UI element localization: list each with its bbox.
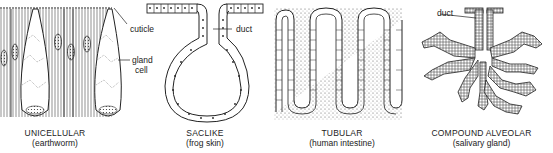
caption-title: SACLIKE	[165, 128, 245, 138]
caption-title: UNICELLULAR	[0, 128, 110, 138]
panel-saclike: duct SACLIKE (frog skin)	[145, 0, 265, 153]
caption-tubular: TUBULAR (human intestine)	[282, 128, 402, 148]
label-duct: duct	[236, 24, 252, 34]
tubular-gland-illustration	[272, 0, 412, 125]
caption-title: TUBULAR	[282, 128, 402, 138]
caption-subtitle: (earthworm)	[0, 138, 110, 148]
caption-compound-alveolar: COMPOUND ALVEOLAR (salivary gland)	[410, 128, 553, 148]
caption-subtitle: (human intestine)	[282, 138, 402, 148]
caption-title: COMPOUND ALVEOLAR	[410, 128, 553, 138]
panel-compound-alveolar: duct COMPOUND ALVEOLAR (salivary gland)	[410, 0, 553, 153]
unicellular-gland-illustration	[0, 0, 140, 125]
saclike-gland-illustration	[145, 0, 265, 125]
caption-unicellular: UNICELLULAR (earthworm)	[0, 128, 110, 148]
caption-saclike: SACLIKE (frog skin)	[165, 128, 245, 148]
panel-unicellular: cuticle gland cell UNICELLULAR (earthwor…	[0, 0, 140, 153]
label-duct: duct	[437, 8, 453, 18]
compound-alveolar-gland-illustration	[410, 0, 553, 125]
caption-subtitle: (frog skin)	[165, 138, 245, 148]
caption-subtitle: (salivary gland)	[410, 138, 553, 148]
panel-tubular: TUBULAR (human intestine)	[272, 0, 412, 153]
